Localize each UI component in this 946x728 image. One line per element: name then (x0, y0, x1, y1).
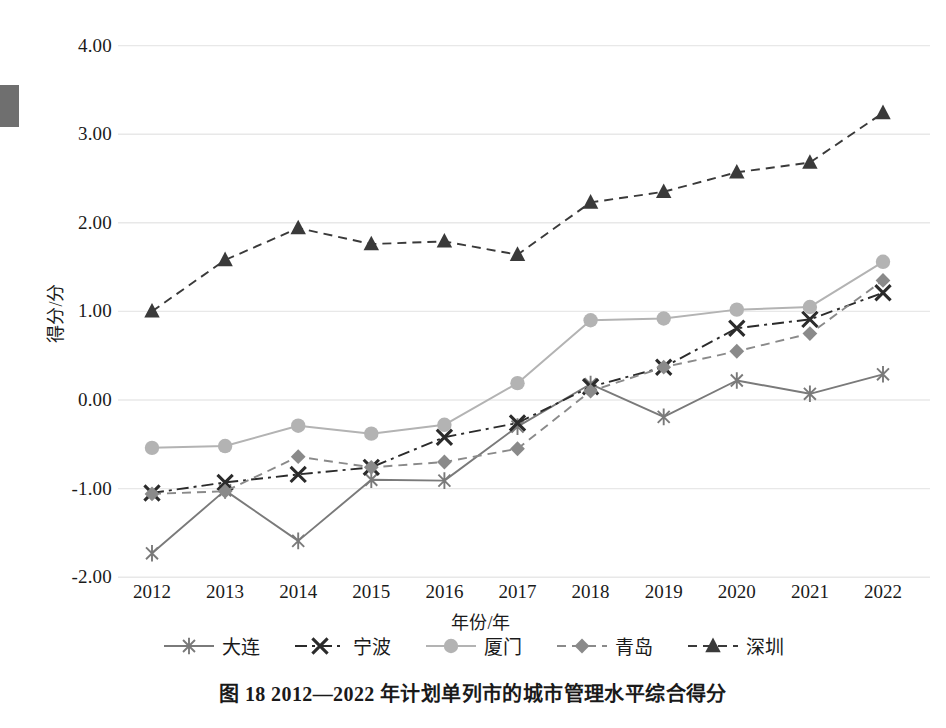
marker-triangle (510, 246, 525, 261)
x-axis-title-text: 年份/年 (451, 613, 510, 633)
x-tick-label: 2019 (645, 581, 683, 603)
series-大连 (146, 366, 889, 562)
legend-label: 厦门 (484, 632, 522, 659)
marker-circle (876, 255, 890, 269)
x-tick-label: 2016 (425, 581, 463, 603)
marker-asterisk (877, 366, 889, 383)
legend-item-厦门[interactable]: 厦门 (425, 632, 522, 659)
x-tick-label: 2021 (791, 581, 829, 603)
x-tick-label: 2015 (352, 581, 390, 603)
legend-item-青岛[interactable]: 青岛 (556, 632, 653, 659)
x-tick-label: 2017 (499, 581, 537, 603)
x-tick-label: 2018 (572, 581, 610, 603)
marker-asterisk (658, 409, 670, 426)
marker-circle (218, 439, 232, 453)
marker-diamond (437, 455, 452, 470)
figure-root: 4.003.002.001.000.00-1.00-2.00 得分/分 2012… (0, 0, 946, 728)
marker-circle (145, 441, 159, 455)
legend-label: 青岛 (615, 632, 653, 659)
legend-item-深圳[interactable]: 深圳 (687, 632, 784, 659)
marker-circle (657, 311, 671, 325)
marker-triangle (290, 220, 305, 235)
legend-label: 大连 (222, 632, 260, 659)
series-line (152, 374, 883, 553)
x-tick-label: 2022 (864, 581, 902, 603)
marker-triangle (875, 105, 890, 120)
x-tick-label: 2014 (279, 581, 317, 603)
legend-label: 宁波 (353, 632, 391, 659)
marker-diamond (291, 449, 306, 464)
legend-key-asterisk-icon (163, 636, 215, 656)
marker-diamond (803, 326, 818, 341)
marker-diamond (574, 638, 589, 653)
marker-asterisk (146, 545, 158, 562)
marker-circle (583, 313, 597, 327)
marker-circle (443, 638, 457, 652)
chart-legend: 大连宁波厦门青岛深圳 (0, 632, 946, 659)
legend-item-大连[interactable]: 大连 (163, 632, 260, 659)
x-tick-label: 2012 (133, 581, 171, 603)
legend-key-x-icon (294, 636, 346, 656)
legend-item-宁波[interactable]: 宁波 (294, 632, 391, 659)
marker-circle (803, 300, 817, 314)
x-tick-label: 2020 (718, 581, 756, 603)
marker-triangle (364, 236, 379, 251)
series-line (152, 113, 883, 311)
legend-key-diamond-icon (556, 636, 608, 656)
marker-circle (291, 418, 305, 432)
legend-label: 深圳 (746, 632, 784, 659)
x-tick-label: 2013 (206, 581, 244, 603)
marker-triangle (802, 154, 817, 169)
series-深圳 (144, 105, 890, 318)
x-axis-title: 年份/年 (0, 608, 946, 634)
x-axis-tick-labels: 2012201320142015201620172018201920202021… (0, 581, 946, 609)
marker-triangle (217, 252, 232, 267)
legend-key-circle-icon (425, 636, 477, 656)
marker-triangle (705, 637, 720, 652)
marker-asterisk (292, 533, 304, 550)
marker-circle (364, 426, 378, 440)
series-line (152, 293, 883, 493)
marker-circle (437, 418, 451, 432)
figure-caption: 图 18 2012—2022 年计划单列市的城市管理水平综合得分 (0, 678, 946, 707)
marker-triangle (144, 303, 159, 318)
marker-circle (730, 302, 744, 316)
marker-diamond (729, 344, 744, 359)
legend-key-triangle-icon (687, 636, 739, 656)
marker-triangle (437, 233, 452, 248)
marker-circle (510, 376, 524, 390)
series-宁波 (144, 285, 890, 500)
